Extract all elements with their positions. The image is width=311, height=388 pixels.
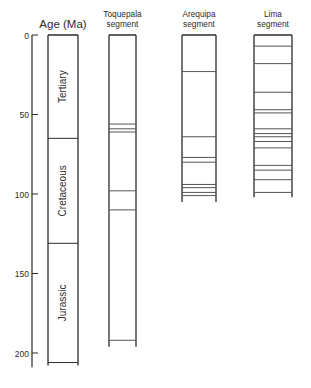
segment-title-sub: segment <box>107 19 140 29</box>
age-column-title: Age (Ma) <box>39 18 86 30</box>
segment-column-toquepala: Toquepalasegment <box>103 9 142 347</box>
age-column: TertiaryCretaceousJurassic <box>48 35 78 366</box>
segment-title-sub: segment <box>183 19 216 29</box>
segment-title: Toquepala <box>103 9 142 19</box>
segment-column-lima: Limasegment <box>254 9 292 197</box>
segment-title: Arequipa <box>182 9 216 19</box>
axis-tick-label: 200 <box>15 349 29 359</box>
period-label-cretaceous: Cretaceous <box>58 165 69 216</box>
axis-tick-label: 50 <box>20 110 30 120</box>
diagram-canvas: 050100150200 Age (Ma) TertiaryCretaceous… <box>0 0 311 388</box>
axis-tick-label: 150 <box>15 269 29 279</box>
segment-columns: ToquepalasegmentArequipasegmentLimasegme… <box>103 9 292 347</box>
segment-column-arequipa: Arequipasegment <box>182 9 216 202</box>
axis-tick-label: 0 <box>24 31 29 41</box>
segment-title-sub: segment <box>257 19 290 29</box>
batholith-age-diagram: 050100150200 Age (Ma) TertiaryCretaceous… <box>0 0 311 388</box>
period-label-jurassic: Jurassic <box>58 285 69 322</box>
age-axis: 050100150200 <box>15 31 38 368</box>
segment-title: Lima <box>264 9 282 19</box>
period-label-tertiary: Tertiary <box>58 70 69 103</box>
axis-tick-label: 100 <box>15 190 29 200</box>
axis-ticks: 050100150200 <box>15 31 38 359</box>
